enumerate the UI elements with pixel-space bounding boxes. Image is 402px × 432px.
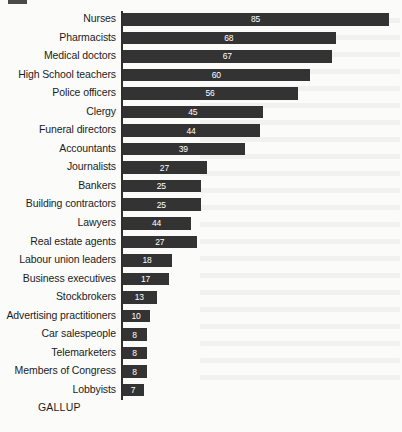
bar-value-label: 44 [122,219,191,228]
bar-value-label: 27 [122,238,197,247]
bar-row: Stockbrokers13 [0,289,402,308]
bar: 10 [122,310,150,323]
scan-artifact-mark [8,0,27,4]
bar: 85 [122,13,389,26]
bar-category-label: Telemarketers [51,346,116,358]
bar: 25 [122,198,201,211]
bar-track: 18 [122,254,172,267]
bar: 8 [122,347,147,360]
bar-row: Nurses85 [0,11,402,30]
bar-row: Members of Congress8 [0,363,402,382]
bar-track: 7 [122,384,144,397]
bar-track: 67 [122,50,332,63]
bar-row: Advertising practitioners10 [0,308,402,327]
bar-value-label: 85 [122,15,389,24]
bar-category-label: Bankers [78,179,116,191]
bar-category-label: High School teachers [18,68,116,80]
bar-category-label: Medical doctors [44,49,116,61]
bar-category-label: Labour union leaders [19,253,116,265]
bar-value-label: 10 [122,312,150,321]
bar-value-label: 13 [122,293,157,302]
bar-row: Pharmacists68 [0,30,402,49]
bar-category-label: Clergy [86,105,116,117]
bar-row: Business executives17 [0,271,402,290]
bar: 8 [122,365,147,378]
bar-row: Lawyers44 [0,215,402,234]
bar-row: Journalists27 [0,159,402,178]
bar: 27 [122,161,207,174]
source-label: GALLUP [38,401,81,413]
bar-rows-container: Nurses85Pharmacists68Medical doctors67Hi… [0,11,402,400]
bar-value-label: 68 [122,34,336,43]
bar: 13 [122,291,157,304]
bar-row: Funeral directors44 [0,122,402,141]
bar-value-label: 27 [122,163,207,172]
bar: 7 [122,384,144,397]
bar-value-label: 56 [122,89,298,98]
bar-category-label: Building contractors [26,197,116,209]
bar-row: High School teachers60 [0,67,402,86]
bar-category-label: Police officers [52,86,116,98]
bar-track: 17 [122,273,169,286]
bar-category-label: Lobbyists [73,383,116,395]
bar-category-label: Pharmacists [59,31,116,43]
bar-track: 8 [122,328,147,341]
bar-track: 13 [122,291,157,304]
bar-category-label: Business executives [23,272,116,284]
bar-row: Bankers25 [0,178,402,197]
bar-track: 39 [122,143,245,156]
bar-track: 10 [122,310,150,323]
bar-track: 56 [122,87,298,100]
bar-row: Telemarketers8 [0,345,402,364]
bar-track: 25 [122,180,201,193]
bar-value-label: 44 [122,126,260,135]
bar-category-label: Members of Congress [15,364,116,376]
bar-row: Accountants39 [0,141,402,160]
bar: 44 [122,217,191,230]
bar-category-label: Journalists [67,160,116,172]
bar-track: 27 [122,161,207,174]
bar-track: 68 [122,32,336,45]
bar-track: 8 [122,347,147,360]
bar: 45 [122,106,263,119]
bar-category-label: Car salespeople [42,327,116,339]
bar-track: 27 [122,236,197,249]
bar-value-label: 18 [122,256,172,265]
bar: 39 [122,143,245,156]
bar-value-label: 39 [122,145,245,154]
bar-value-label: 25 [122,182,201,191]
bar-track: 45 [122,106,263,119]
bar-value-label: 17 [122,275,169,284]
bar-value-label: 45 [122,108,263,117]
bar-row: Real estate agents27 [0,234,402,253]
bar: 27 [122,236,197,249]
bar-value-label: 8 [122,330,147,339]
bar: 18 [122,254,172,267]
bar-track: 25 [122,198,201,211]
bar-value-label: 25 [122,200,201,209]
bar: 17 [122,273,169,286]
bar-row: Medical doctors67 [0,48,402,67]
bar-category-label: Accountants [59,142,116,154]
bar-category-label: Advertising practitioners [6,309,116,321]
bar-row: Lobbyists7 [0,382,402,401]
bar-value-label: 7 [122,386,144,395]
bar-row: Clergy45 [0,104,402,123]
bar-row: Building contractors25 [0,196,402,215]
bar-track: 60 [122,69,310,82]
bar-track: 44 [122,124,260,137]
bar-category-label: Funeral directors [39,123,116,135]
bar-track: 8 [122,365,147,378]
bar: 44 [122,124,260,137]
bar-row: Police officers56 [0,85,402,104]
bar-track: 85 [122,13,389,26]
bar-value-label: 8 [122,367,147,376]
gallup-honesty-ethics-bar-chart: Nurses85Pharmacists68Medical doctors67Hi… [0,0,402,432]
bar-value-label: 8 [122,349,147,358]
bar-value-label: 67 [122,52,332,61]
bar: 8 [122,328,147,341]
bar-row: Labour union leaders18 [0,252,402,271]
bar-category-label: Real estate agents [30,235,116,247]
bar: 25 [122,180,201,193]
bar-category-label: Lawyers [78,216,116,228]
